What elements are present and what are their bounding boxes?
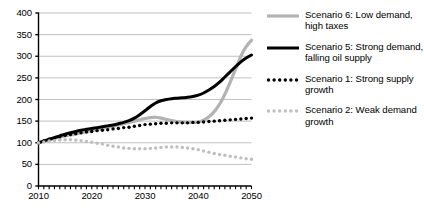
x-tick-label: 2010 (19, 191, 59, 201)
legend-label: Scenario 2: Weak demand growth (305, 104, 424, 127)
legend-item-3[interactable]: Scenario 1: Strong supply growth (266, 73, 424, 96)
series-1 (39, 40, 252, 143)
y-tick-label: 150 (2, 116, 32, 126)
y-tick-label: 100 (2, 138, 32, 148)
y-tick-label: 400 (2, 8, 32, 18)
x-tick-label: 2040 (178, 191, 218, 201)
legend-label: Scenario 6: Low demand, high taxes (305, 9, 424, 32)
legend-swatch-icon (266, 73, 300, 87)
legend-swatch-icon (266, 104, 300, 118)
legend-swatch-icon (266, 41, 300, 55)
chart-plot-region: 050100150200250300350400 201020202030204… (0, 0, 262, 217)
x-tick-label: 2050 (232, 191, 272, 201)
chart-canvas (0, 0, 262, 217)
legend-label: Scenario 1: Strong supply growth (305, 73, 424, 96)
y-tick-label: 250 (2, 73, 32, 83)
y-tick-label: 200 (2, 95, 32, 105)
chart-figure: 050100150200250300350400 201020202030204… (0, 0, 424, 217)
y-tick-label: 350 (2, 30, 32, 40)
gridlines (39, 13, 252, 164)
series-4 (37, 138, 253, 161)
legend-swatch-icon (266, 9, 300, 23)
x-tick-label: 2020 (72, 191, 112, 201)
chart-legend: Scenario 6: Low demand, high taxesScenar… (266, 9, 424, 136)
legend-label: Scenario 5: Strong demand, falling oil s… (305, 41, 424, 64)
legend-item-4[interactable]: Scenario 2: Weak demand growth (266, 104, 424, 127)
x-tick-label: 2030 (125, 191, 165, 201)
y-tick-label: 50 (2, 159, 32, 169)
legend-item-2[interactable]: Scenario 5: Strong demand, falling oil s… (266, 41, 424, 64)
series-2 (39, 55, 252, 143)
legend-item-1[interactable]: Scenario 6: Low demand, high taxes (266, 9, 424, 32)
y-tick-label: 300 (2, 51, 32, 61)
